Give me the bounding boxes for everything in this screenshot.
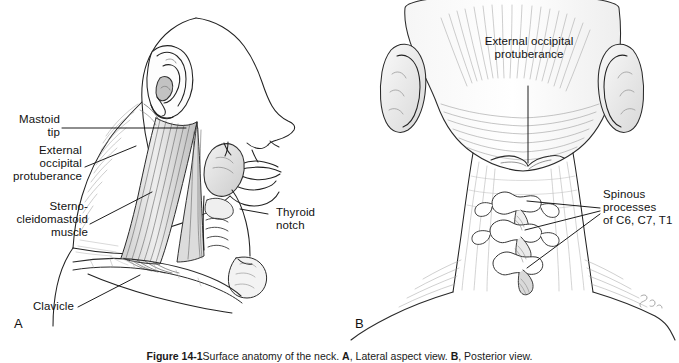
caption-figure-number: Figure 14-1 — [147, 350, 203, 362]
label-mastoid-tip: Mastoid tip — [4, 113, 60, 139]
label-thyroid-notch: Thyroid notch — [276, 206, 340, 232]
caption-panel-a-letter: A — [342, 350, 350, 362]
label-external-occipital-protuberance-a: External occipital protuberance — [0, 144, 82, 184]
label-sternocleidomastoid-muscle: Sterno- cleidomastoid muscle — [0, 200, 88, 240]
caption-panel-b-text: , Posterior view. — [458, 350, 532, 362]
figure-caption: Figure 14-1Surface anatomy of the neck. … — [0, 350, 679, 363]
label-spinous-processes: Spinous processes of C6, C7, T1 — [603, 188, 679, 228]
panel-a-letter: A — [14, 316, 23, 331]
label-external-occipital-protuberance-b: External occipital protuberance — [455, 35, 603, 61]
panel-b-posterior-view: External occipital protuberance Spinous … — [345, 0, 679, 345]
panel-a-lateral-view: Mastoid tip External occipital protubera… — [0, 0, 345, 345]
anatomy-figure: Mastoid tip External occipital protubera… — [0, 0, 679, 363]
panel-b-letter: B — [355, 316, 364, 331]
caption-text: Surface anatomy of the neck. — [203, 350, 343, 362]
caption-panel-a-text: , Lateral aspect view. — [350, 350, 451, 362]
label-clavicle: Clavicle — [4, 300, 74, 313]
